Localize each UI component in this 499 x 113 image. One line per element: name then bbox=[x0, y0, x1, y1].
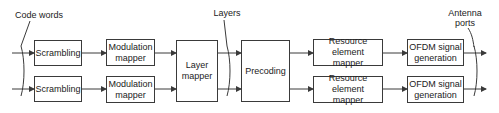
modulation-mapper-block-2: Modulation mapper bbox=[106, 76, 155, 103]
antenna-ports-label: Antenna ports bbox=[444, 8, 486, 28]
modulation-mapper-block-1: Modulation mapper bbox=[106, 39, 155, 66]
ofdm-signal-generation-block-2: OFDM signal generation bbox=[407, 76, 464, 103]
scrambling-block-2: Scrambling bbox=[34, 76, 82, 102]
resource-element-mapper-block-1: Resource element mapper bbox=[313, 39, 383, 66]
scrambling-block-1: Scrambling bbox=[34, 40, 82, 66]
layer-mapper-block: Layer mapper bbox=[176, 40, 218, 102]
resource-element-mapper-block-2: Resource element mapper bbox=[313, 76, 383, 103]
precoding-block: Precoding bbox=[241, 40, 290, 102]
layers-label: Layers bbox=[210, 8, 244, 18]
ofdm-signal-generation-block-1: OFDM signal generation bbox=[407, 39, 464, 66]
lte-downlink-processing-diagram: Code words Layers Antenna ports Scrambli… bbox=[0, 0, 499, 113]
code-words-label: Code words bbox=[14, 10, 64, 20]
